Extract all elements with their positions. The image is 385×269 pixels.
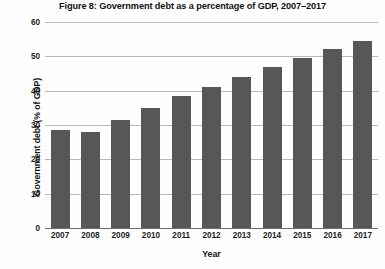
x-axis-tick-label: 2012 <box>196 231 226 240</box>
x-axis-tick-label: 2014 <box>257 231 287 240</box>
bar[interactable] <box>232 77 251 228</box>
chart-title: Figure 8: Government debt as a percentag… <box>0 0 385 13</box>
y-axis-tick-label: 40 <box>26 86 40 95</box>
bar-slot <box>196 22 226 228</box>
y-axis-tick-label: 60 <box>26 18 40 27</box>
bar-slot <box>45 22 75 228</box>
bar[interactable] <box>202 87 221 228</box>
x-axis-tick-labels: 2007200820092010201120122013201420152016… <box>45 231 378 245</box>
bar[interactable] <box>172 96 191 228</box>
y-axis-tick-label: 50 <box>26 52 40 61</box>
x-axis-tick-label: 2009 <box>106 231 136 240</box>
x-axis-tick-label: 2016 <box>317 231 347 240</box>
x-axis-tick-label: 2007 <box>45 231 75 240</box>
y-axis-tick-label: 30 <box>26 121 40 130</box>
y-axis-tick-labels: Government debt (% of GDP) 0102030405060 <box>26 22 40 228</box>
y-axis-title: Government debt (% of GDP) <box>32 42 42 232</box>
bar[interactable] <box>81 132 100 228</box>
x-axis-tick-label: 2017 <box>348 231 378 240</box>
bar[interactable] <box>141 108 160 228</box>
bar-slot <box>227 22 257 228</box>
x-axis-tick-label: 2011 <box>166 231 196 240</box>
x-axis-tick-label: 2013 <box>227 231 257 240</box>
bar[interactable] <box>353 41 372 228</box>
y-axis-tick-label: 0 <box>26 224 40 233</box>
bar-slot <box>317 22 347 228</box>
bar[interactable] <box>323 49 342 228</box>
bar-slot <box>106 22 136 228</box>
bar[interactable] <box>293 58 312 228</box>
bar[interactable] <box>111 120 130 228</box>
bar-slot <box>348 22 378 228</box>
bar[interactable] <box>51 130 70 228</box>
x-axis-title: Year <box>45 249 378 259</box>
bar-slot <box>166 22 196 228</box>
x-axis-tick-label: 2008 <box>75 231 105 240</box>
plot-area <box>45 22 378 228</box>
y-axis-tick-label: 20 <box>26 155 40 164</box>
bar[interactable] <box>263 67 282 228</box>
bar-slot <box>136 22 166 228</box>
bar-slot <box>257 22 287 228</box>
bar-slot <box>75 22 105 228</box>
x-axis-tick-label: 2010 <box>136 231 166 240</box>
y-axis-tick-label: 10 <box>26 189 40 198</box>
figure-container: Figure 8: Government debt as a percentag… <box>0 0 385 269</box>
bar-slot <box>287 22 317 228</box>
x-axis-tick-label: 2015 <box>287 231 317 240</box>
x-axis-line <box>45 228 378 229</box>
